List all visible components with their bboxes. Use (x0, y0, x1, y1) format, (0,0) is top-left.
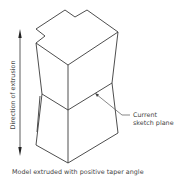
top-face (36, 10, 118, 65)
direction-label: Direction of extrusion (9, 61, 17, 130)
callout-line1: Current (133, 111, 157, 119)
direction-arrow (18, 29, 21, 156)
callout-line2: sketch plane (133, 119, 174, 127)
lower-body (36, 83, 118, 163)
caption: Model extruded with positive taper angle (12, 168, 144, 176)
callout-leader (95, 93, 130, 115)
sketch-plane-outline (42, 83, 112, 110)
extrusion-diagram: Direction of extrusion Current sketch pl… (0, 0, 187, 186)
